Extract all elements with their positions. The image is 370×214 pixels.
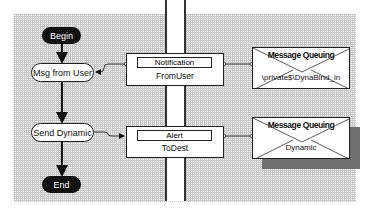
msg-from-user-node[interactable]: Msg from User — [31, 63, 94, 82]
begin-label: Begin — [50, 31, 73, 41]
msg-from-user-label: Msg from User — [33, 68, 92, 78]
notification-port[interactable]: Notification FromUser — [126, 53, 224, 86]
send-dynamic-label: Send Dynamic — [33, 128, 92, 138]
end-label: End — [53, 180, 69, 190]
alert-port-header: Alert — [137, 130, 212, 141]
message-queuing-in-shape[interactable]: Message Queuing \private$\DynaBind_in — [252, 47, 350, 89]
notification-port-header: Notification — [137, 57, 212, 68]
message-queuing-out-shape[interactable]: Message Queuing Dynamic — [252, 117, 350, 159]
alert-port-name: ToDest — [127, 143, 223, 153]
begin-node[interactable]: Begin — [42, 27, 81, 44]
send-dynamic-node[interactable]: Send Dynamic — [31, 123, 94, 142]
diagram-canvas: Begin Msg from User Send Dynamic End Not… — [0, 0, 370, 214]
mq-out-title: Message Queuing — [253, 120, 349, 130]
notification-header-text: Notification — [155, 58, 195, 67]
end-node[interactable]: End — [42, 176, 81, 193]
alert-header-text: Alert — [166, 131, 182, 140]
mq-out-queue: Dynamic — [253, 143, 349, 152]
notification-port-name: FromUser — [127, 71, 223, 81]
mq-in-queue: \private$\DynaBind_in — [253, 73, 349, 82]
alert-port[interactable]: Alert ToDest — [126, 126, 224, 158]
mq-in-title: Message Queuing — [253, 50, 349, 60]
